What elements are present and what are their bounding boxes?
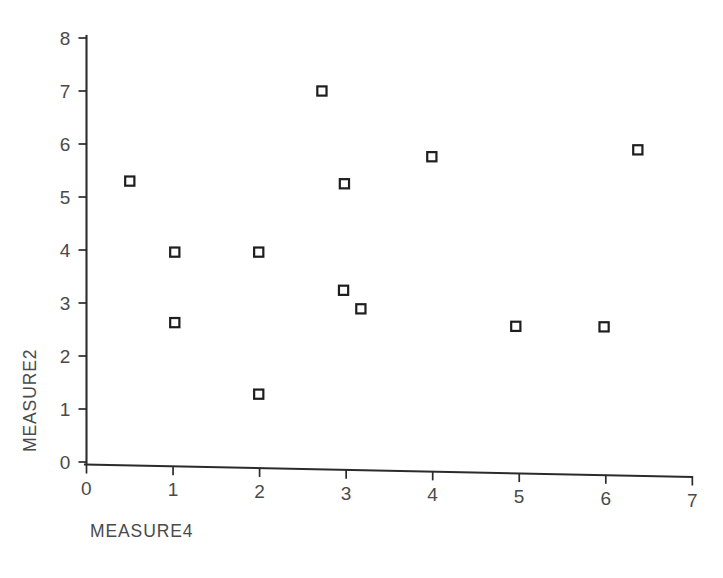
scatter-plot-figure: 012345678 01234567 MEASURE4 MEASURE2 xyxy=(0,0,723,578)
data-point-series xyxy=(125,86,642,398)
x-tick-label: 4 xyxy=(427,484,438,505)
x-axis-title: MEASURE4 xyxy=(90,521,193,541)
x-tick-label: 6 xyxy=(600,488,611,509)
data-point-marker xyxy=(170,248,179,257)
x-tick-label: 0 xyxy=(81,478,92,499)
x-axis: 01234567 xyxy=(81,465,698,511)
x-tick-label: 1 xyxy=(168,479,179,500)
x-axis-line xyxy=(85,465,692,478)
data-point-marker xyxy=(356,304,365,313)
y-tick-label: 0 xyxy=(60,452,71,473)
x-tick-label: 5 xyxy=(514,486,525,507)
data-point-marker xyxy=(125,177,134,186)
y-tick-label: 7 xyxy=(60,81,71,102)
chart-canvas: 012345678 01234567 MEASURE4 MEASURE2 xyxy=(0,0,723,578)
y-axis-ticks: 012345678 xyxy=(60,28,87,473)
y-tick-label: 5 xyxy=(60,187,71,208)
y-tick-label: 3 xyxy=(60,293,71,314)
y-tick-label: 6 xyxy=(60,134,71,155)
data-point-marker xyxy=(633,145,642,154)
data-point-marker xyxy=(170,318,179,327)
y-tick-label: 4 xyxy=(60,240,71,261)
data-point-marker xyxy=(599,322,608,331)
y-tick-label: 2 xyxy=(60,346,71,367)
y-tick-label: 8 xyxy=(60,28,71,49)
data-point-marker xyxy=(317,86,326,95)
data-point-marker xyxy=(254,390,263,399)
x-tick-label: 2 xyxy=(254,481,265,502)
data-point-marker xyxy=(340,179,349,188)
data-point-marker xyxy=(254,248,263,257)
data-point-marker xyxy=(339,286,348,295)
y-tick-label: 1 xyxy=(60,399,71,420)
x-tick-label: 3 xyxy=(341,483,352,504)
y-axis: 012345678 xyxy=(60,28,87,473)
data-point-marker xyxy=(427,152,436,161)
x-tick-label: 7 xyxy=(687,490,698,511)
data-point-marker xyxy=(511,322,520,331)
y-axis-title: MEASURE2 xyxy=(20,349,40,452)
